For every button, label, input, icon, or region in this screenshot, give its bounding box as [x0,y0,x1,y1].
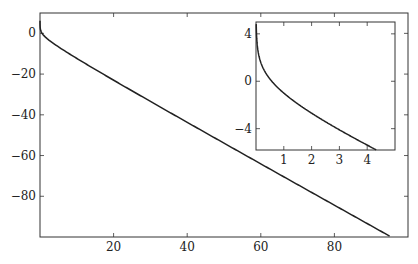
x-tick-label: 1 [280,153,288,167]
y-tick-label: −20 [11,67,36,81]
y-tick-label: 0 [28,26,36,40]
y-tick-label: 4 [244,27,252,41]
chart-root: 204060800−20−40−60−80 123440−4 [0,0,418,264]
x-tick-label: 80 [327,240,342,254]
x-tick-label: 60 [253,240,268,254]
x-tick-label: 2 [308,153,316,167]
x-tick-label: 4 [363,153,371,167]
x-tick-label: 20 [106,240,121,254]
y-tick-label: 0 [244,74,252,88]
y-tick-label: −40 [11,108,36,122]
inset-plot: 123440−4 [234,22,395,167]
y-tick-label: −60 [11,149,36,163]
y-tick-label: −80 [11,189,36,203]
x-tick-label: 40 [180,240,195,254]
y-tick-label: −4 [234,122,252,136]
x-tick-label: 3 [336,153,344,167]
